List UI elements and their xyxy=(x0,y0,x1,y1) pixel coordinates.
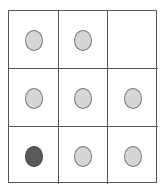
cell-r1-c2 xyxy=(59,11,108,69)
light-dot xyxy=(74,30,92,51)
dot-grid xyxy=(8,10,157,183)
cell-r3-c3 xyxy=(108,127,158,184)
cell-r1-c1 xyxy=(9,11,59,69)
dark-dot xyxy=(25,146,43,167)
light-dot xyxy=(25,30,43,51)
light-dot xyxy=(74,88,92,109)
light-dot xyxy=(124,88,142,109)
cell-r1-c3-empty xyxy=(108,11,158,69)
cell-r2-c2 xyxy=(59,69,108,127)
light-dot xyxy=(124,146,142,167)
cell-r3-c2 xyxy=(59,127,108,184)
cell-r2-c3 xyxy=(108,69,158,127)
cell-r3-c1 xyxy=(9,127,59,184)
light-dot xyxy=(25,88,43,109)
light-dot xyxy=(74,146,92,167)
cell-r2-c1 xyxy=(9,69,59,127)
